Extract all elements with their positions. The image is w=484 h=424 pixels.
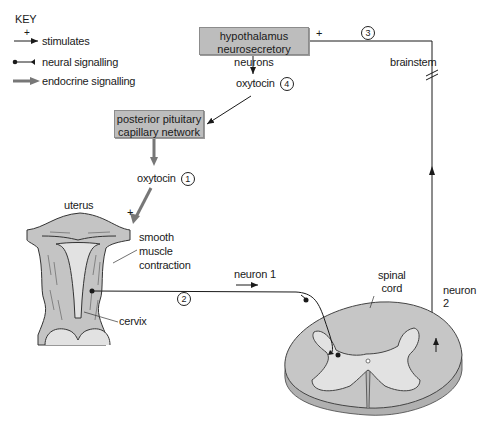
plus-hypothalamus: + [316, 27, 322, 40]
uterus-label: uterus [64, 199, 93, 212]
key-label-neural: neural signalling [42, 56, 118, 69]
key-label-endocrine: endocrine signalling [42, 75, 135, 88]
endocrine-arrow-uterus [136, 188, 151, 217]
pituitary-box: posterior pituitary capillary network [114, 110, 204, 138]
arrow-oxytocin-to-pituitary [207, 96, 251, 124]
key-neural-signalling-icon [13, 59, 35, 65]
key-title: KEY [15, 13, 36, 26]
spinal-cord-label: spinal cord [378, 269, 406, 295]
oxytocin-1-label: oxytocin1 [137, 172, 195, 186]
smooth-muscle-label: smooth muscle contraction [139, 230, 191, 272]
uterus-illustration [27, 213, 130, 345]
hypothalamus-box: hypothalamus neurosecretory neurons [199, 27, 309, 55]
brainstem-label: brainstem [390, 56, 437, 69]
step-2-marker: 2 [177, 292, 191, 306]
neuron-1-label: neuron 1 [234, 268, 276, 281]
pituitary-line2: capillary network [115, 126, 203, 139]
oxytocin-text: oxytocin [236, 77, 275, 89]
oxytocin-text: oxytocin [137, 172, 176, 184]
key-label-stimulates: stimulates [42, 35, 90, 48]
cervix-label: cervix [119, 315, 147, 328]
key-endocrine-arrow-icon [13, 77, 40, 85]
neuron-2-label: neuron 2 [443, 284, 476, 310]
step-3-marker: 3 [356, 26, 375, 40]
hypothalamus-line2: neurosecretory neurons [200, 43, 308, 69]
hypothalamus-line1: hypothalamus [200, 30, 308, 43]
pituitary-line1: posterior pituitary [115, 113, 203, 126]
spinal-cord-illustration [285, 302, 462, 415]
step-1-marker: 1 [181, 172, 195, 186]
key-plus-sign: + [24, 26, 30, 39]
oxytocin-4-label: oxytocin4 [236, 77, 294, 91]
plus-uterus: + [127, 206, 133, 219]
step-4-marker: 4 [280, 77, 294, 91]
